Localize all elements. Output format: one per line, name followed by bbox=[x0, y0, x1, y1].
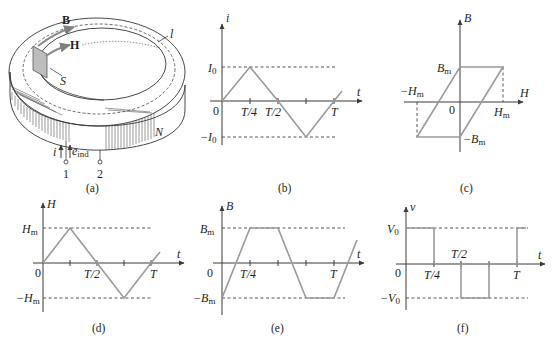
label-H: H bbox=[70, 38, 80, 52]
b-ylabel: i bbox=[226, 11, 229, 25]
figure-canvas: B H S l N i eind 1 2 (a) i t 0 T/4 T/2 T… bbox=[0, 0, 560, 347]
caption-b: (b) bbox=[278, 182, 292, 195]
terminal-2 bbox=[98, 160, 102, 164]
b-level-I0: I0 bbox=[207, 61, 217, 76]
f-tick-T4: T/4 bbox=[424, 268, 440, 282]
panel-e-flux-density-waveform: B t 0 T/4 T Bm −Bm (e) bbox=[193, 199, 364, 335]
e-level-mBm: −Bm bbox=[193, 291, 215, 306]
label-l: l bbox=[170, 27, 174, 41]
label-N: N bbox=[154, 125, 164, 139]
b-trace bbox=[222, 67, 342, 137]
panel-d-field-waveform: H t 0 T/2 T Hm −Hm (d) bbox=[16, 197, 184, 335]
d-xlabel: t bbox=[177, 247, 181, 261]
d-level-mHm: −Hm bbox=[16, 291, 40, 306]
e-ylabel: B bbox=[226, 199, 234, 213]
f-origin: 0 bbox=[395, 266, 401, 280]
d-tick-T: T bbox=[150, 267, 158, 281]
terminal-1 bbox=[64, 160, 68, 164]
c-level-Hm: Hm bbox=[493, 105, 510, 120]
e-tick-T4: T/4 bbox=[240, 267, 256, 281]
panel-a-toroid-diagram: B H S l N i eind 1 2 (a) bbox=[9, 13, 185, 195]
c-xlabel: H bbox=[519, 86, 530, 100]
label-i: i bbox=[53, 145, 56, 159]
caption-f: (f) bbox=[457, 322, 469, 335]
f-level-mV0: −V0 bbox=[380, 291, 400, 306]
d-level-Hm: Hm bbox=[21, 222, 38, 237]
c-ylabel: B bbox=[464, 11, 472, 25]
panel-f-voltage-waveform: v t 0 T/4 T/2 T V0 −V0 (f) bbox=[380, 200, 545, 335]
c-level-Bm: Bm bbox=[437, 61, 451, 76]
caption-e: (e) bbox=[271, 322, 284, 335]
panel-b-current-waveform: i t 0 T/4 T/2 T I0 −I0 (b) bbox=[200, 11, 362, 195]
e-level-Bm: Bm bbox=[200, 222, 214, 237]
terminal-1-label: 1 bbox=[63, 167, 69, 181]
label-B: B bbox=[62, 13, 70, 27]
d-ylabel: H bbox=[46, 197, 57, 211]
b-origin: 0 bbox=[213, 104, 219, 118]
f-tick-T2: T/2 bbox=[451, 247, 467, 261]
H-arrow bbox=[46, 45, 70, 56]
c-origin: 0 bbox=[449, 103, 455, 117]
B-arrow bbox=[38, 27, 74, 46]
f-trace bbox=[406, 228, 526, 298]
toroid-outer-edge bbox=[9, 18, 185, 126]
b-tick-T4: T/4 bbox=[241, 105, 257, 119]
f-level-V0: V0 bbox=[387, 222, 399, 237]
panel-c-hysteresis-loop: B H 0 Bm −Bm Hm −Hm (c) bbox=[400, 11, 530, 195]
f-ylabel: v bbox=[410, 200, 416, 214]
caption-c: (c) bbox=[460, 182, 473, 195]
cross-section-S bbox=[33, 46, 47, 78]
b-tick-T2: T/2 bbox=[265, 105, 281, 119]
b-xlabel: t bbox=[357, 85, 361, 99]
e-tick-T: T bbox=[330, 267, 338, 281]
b-level-mI0: −I0 bbox=[200, 130, 217, 145]
f-tick-T: T bbox=[513, 268, 521, 282]
caption-a: (a) bbox=[86, 182, 99, 195]
label-S: S bbox=[60, 74, 66, 88]
e-origin: 0 bbox=[207, 266, 213, 280]
d-origin: 0 bbox=[35, 266, 41, 280]
terminal-2-label: 2 bbox=[97, 167, 103, 181]
e-xlabel: t bbox=[357, 247, 361, 261]
caption-d: (d) bbox=[92, 322, 106, 335]
c-level-mHm: −Hm bbox=[400, 84, 424, 99]
f-xlabel: t bbox=[538, 248, 542, 262]
c-level-mBm: −Bm bbox=[463, 132, 485, 147]
toroid-inner-edge bbox=[38, 28, 166, 100]
d-tick-T2: T/2 bbox=[84, 267, 100, 281]
b-tick-T: T bbox=[331, 105, 339, 119]
